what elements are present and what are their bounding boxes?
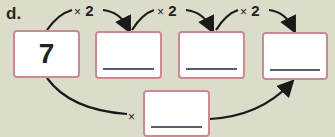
times-two-label-2: × 2 (157, 2, 177, 19)
bottom-multiply-label: × (128, 107, 135, 124)
times-two-label-1: × 2 (74, 2, 94, 19)
multiplier-answer-box[interactable] (143, 90, 210, 137)
exercise-label: d. (6, 4, 21, 24)
start-value: 7 (15, 38, 78, 70)
answer-line (103, 68, 154, 70)
answer-line (151, 126, 202, 128)
start-value-box: 7 (13, 30, 80, 78)
answer-box-1[interactable] (95, 31, 162, 79)
answer-box-2[interactable] (178, 31, 245, 79)
answer-line (186, 68, 237, 70)
answer-line (270, 69, 320, 71)
answer-box-3[interactable] (262, 32, 328, 80)
times-two-label-3: × 2 (240, 2, 260, 19)
